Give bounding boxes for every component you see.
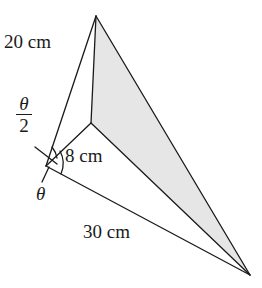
angle-label: θ [36, 184, 45, 203]
pyramid-figure: 20 cm θ 2 8 cm θ 30 cm [0, 0, 262, 288]
edge-inner-label: 8 cm [65, 146, 102, 165]
angle-arc [60, 151, 63, 174]
half-angle-denominator: 2 [19, 115, 29, 136]
edge-top-label: 20 cm [4, 32, 51, 51]
angle-pointer [42, 167, 49, 182]
edge-apex-left [46, 16, 96, 166]
half-angle-arc [52, 147, 57, 158]
half-angle-numerator: θ [19, 93, 28, 114]
half-angle-label: θ 2 [16, 94, 32, 135]
edge-bottom-label: 30 cm [83, 222, 130, 241]
edge-left-right [46, 166, 250, 275]
